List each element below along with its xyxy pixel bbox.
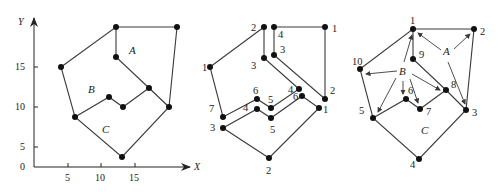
mid-label-inner-5: 5 [268,94,273,105]
mid-label-inner-3: 3 [280,44,285,55]
mid-label-right-1: 1 [323,104,328,115]
mid-label-top-right-1: 1 [332,23,337,34]
x-axis-label: X [193,161,201,172]
y-tick-5: 5 [20,141,25,152]
right-label-2: 2 [480,26,485,37]
region-a-label: A [128,44,136,56]
right-label-9: 9 [419,49,424,60]
mid-label-upper-3: 3 [251,60,256,71]
mid-label-left-7: 7 [209,103,214,114]
right-region-a-label: A [442,45,450,57]
right-label-7: 7 [426,106,431,117]
x-tick-15: 15 [129,172,139,183]
right-region-b-label: B [399,65,406,77]
mid-label-top-4: 4 [278,29,284,40]
mid-label-mid-6: 6 [293,91,298,102]
y-tick-10: 10 [15,101,25,112]
region-b-label: B [88,83,95,95]
mid-label-lower-5: 5 [270,124,275,135]
planar-graph-figure: Y X 0 5 10 15 5 10 15 [0,0,498,193]
region-c-label: C [102,123,110,135]
right-label-3: 3 [472,107,477,118]
right-region-c-label: C [421,124,429,136]
mid-label-top-2: 2 [251,22,256,33]
mid-label-bottom-2: 2 [266,165,271,176]
mid-label-left-3: 3 [210,122,215,133]
mid-label-right-2: 2 [330,85,335,96]
y-tick-15: 15 [15,61,25,72]
mid-label-left-1: 1 [202,62,207,73]
origin-label: 0 [20,161,25,172]
right-label-5: 5 [359,105,364,116]
right-panel: 1 2 3 4 5 6 7 8 9 10 A B C [352,15,485,170]
middle-panel: 2 4 1 1 3 3 2 4 6 1 6 5 4 5 7 3 2 [202,22,337,176]
right-label-6: 6 [408,85,413,96]
right-label-1: 1 [410,15,415,26]
mid-label-inner-6: 6 [253,85,258,96]
middle-vertices [207,24,328,161]
left-panel: Y X 0 5 10 15 5 10 15 [15,16,201,183]
right-label-4: 4 [410,159,416,170]
x-tick-5: 5 [65,172,70,183]
mid-label-lower-4: 4 [243,102,249,113]
right-label-8: 8 [451,79,456,90]
left-vertices [58,24,180,160]
right-vertices [357,26,477,162]
y-axis-label: Y [18,16,25,27]
x-tick-10: 10 [95,172,105,183]
right-label-10: 10 [352,56,363,67]
